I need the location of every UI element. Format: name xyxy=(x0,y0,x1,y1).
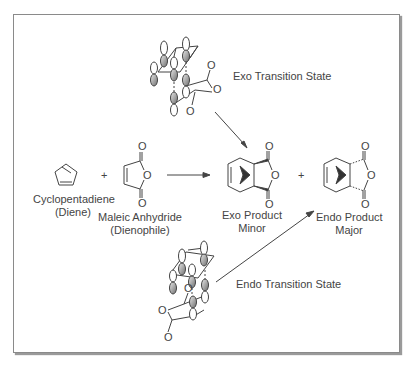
plus-sign: + xyxy=(101,169,107,182)
exo-ts-arrow xyxy=(215,112,247,148)
exo-transition-state-label: Exo Transition State xyxy=(233,70,331,83)
product-yield: Major xyxy=(316,224,382,237)
atom-o: O xyxy=(213,83,222,96)
exo-product-label: Exo Product Minor xyxy=(222,209,282,235)
endo-product-structure xyxy=(324,151,368,199)
atom-o: O xyxy=(184,282,193,295)
maleic-anhydride-label: Maleic Anhydride (Dienophile) xyxy=(97,211,183,237)
atom-o: O xyxy=(271,169,280,182)
endo-product-label: Endo Product Major xyxy=(316,211,382,237)
product-name: Endo Product xyxy=(316,211,382,224)
atom-o: O xyxy=(367,169,376,182)
reactant-role: (Dienophile) xyxy=(97,224,183,237)
atom-o: O xyxy=(138,197,147,210)
reactant-name: Maleic Anhydride xyxy=(97,211,183,224)
atom-o: O xyxy=(207,59,216,72)
atom-o: O xyxy=(164,331,173,344)
exo-transition-state-structure xyxy=(151,37,213,116)
plus-sign: + xyxy=(298,169,304,182)
product-name: Exo Product xyxy=(222,209,282,222)
reaction-arrow xyxy=(167,173,210,178)
atom-o: O xyxy=(361,140,370,153)
atom-o: O xyxy=(138,140,147,153)
atom-o: O xyxy=(265,140,274,153)
atom-o: O xyxy=(143,169,152,182)
atom-o: O xyxy=(186,105,195,118)
atom-o: O xyxy=(361,198,370,211)
exo-product-structure xyxy=(228,151,272,199)
product-yield: Minor xyxy=(222,222,282,235)
reaction-scheme xyxy=(0,0,411,367)
cyclopentadiene-structure xyxy=(55,164,77,185)
reactant-name: Cyclopentadiene xyxy=(33,193,113,206)
maleic-anhydride-structure xyxy=(124,152,144,198)
atom-o: O xyxy=(158,304,167,317)
endo-transition-state-label: Endo Transition State xyxy=(236,278,341,291)
